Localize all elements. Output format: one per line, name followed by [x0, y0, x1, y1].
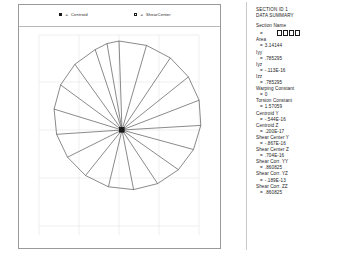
property-row: Shear Center Y=-.867E-16 — [256, 135, 339, 147]
open-square-marker-icon — [134, 13, 137, 16]
property-number: -.544E-16 — [265, 117, 286, 122]
property-number: .860825 — [265, 190, 282, 195]
property-number: .704E-16 — [265, 153, 284, 158]
property-row: Shear Corr. YY=.860825 — [256, 159, 339, 171]
data-summary-line: DATA SUMMARY — [256, 13, 339, 19]
property-row: Iyy=.785295 — [256, 50, 339, 62]
property-number: .785295 — [265, 80, 282, 85]
plot-legend: = Centroid = ShearCenter — [19, 5, 220, 27]
property-number: -.867E-16 — [265, 141, 286, 146]
legend-item-shear-center: = ShearCenter — [134, 12, 171, 17]
plot-panel: = Centroid = ShearCenter — [18, 4, 221, 249]
property-number: .860825 — [265, 165, 282, 170]
property-list: Section Name=Area=3.14144Iyy=.785295Iyz=… — [256, 23, 339, 195]
section-mesh-plot — [19, 27, 220, 250]
centroid-marker — [119, 127, 125, 133]
property-row: Izz=.785295 — [256, 74, 339, 86]
property-number: 0 — [265, 92, 268, 97]
property-value: =.860825 — [256, 190, 339, 196]
legend-shear-equals: = — [140, 12, 143, 17]
filled-square-marker-icon — [59, 13, 62, 16]
legend-centroid-label: Centroid — [71, 12, 88, 17]
property-value: = — [256, 30, 339, 38]
property-row: Shear Corr. YZ=-.189E-13 — [256, 171, 339, 183]
property-row: Torsion Constant=1.57059 — [256, 98, 339, 110]
property-row: Shear Corr. ZZ=.860825 — [256, 184, 339, 196]
property-number: 1.57059 — [265, 104, 282, 109]
section-data-summary-panel: SECTION ID 1 DATA SUMMARY Section Name=A… — [246, 2, 339, 250]
legend-item-centroid: = Centroid — [59, 12, 88, 17]
property-number: -.113E-16 — [265, 68, 286, 73]
section-outline — [54, 41, 201, 190]
circular-section-mesh — [54, 41, 201, 190]
property-row: Centroid Z=.200E-17 — [256, 123, 339, 135]
plot-gridlines — [39, 35, 199, 235]
ansys-section-plot-window: = Centroid = ShearCenter — [0, 0, 341, 267]
property-number: 3.14144 — [265, 43, 282, 48]
property-row: Centroid Y=-.544E-16 — [256, 111, 339, 123]
legend-shear-label: ShearCenter — [146, 12, 171, 17]
property-equals: = — [260, 31, 265, 36]
property-number: -.189E-13 — [265, 178, 286, 183]
section-mesh-svg — [19, 27, 220, 250]
property-number: .785295 — [265, 56, 282, 61]
property-row: Iyz=-.113E-16 — [256, 62, 339, 74]
property-row: Warping Constant=0 — [256, 86, 339, 98]
legend-centroid-equals: = — [65, 12, 68, 17]
property-row: Shear Center Z=.704E-16 — [256, 147, 339, 159]
property-number: .200E-17 — [265, 129, 284, 134]
property-row: Section Name= — [256, 23, 339, 37]
unrenderable-name-glyphs — [277, 30, 301, 38]
data-summary-header: SECTION ID 1 DATA SUMMARY — [256, 7, 339, 19]
property-row: Area=3.14144 — [256, 37, 339, 49]
